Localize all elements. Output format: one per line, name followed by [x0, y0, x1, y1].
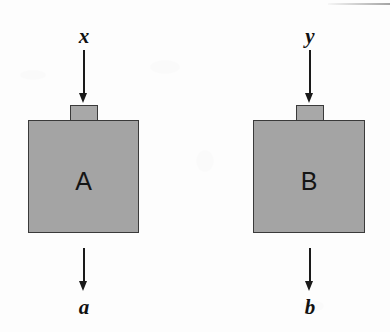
- scan-artifact-line: [328, 3, 390, 5]
- output-arrow-head-b: [305, 281, 313, 291]
- scan-artifact-speck: [20, 70, 46, 80]
- block-b-label: B: [254, 169, 364, 194]
- input-arrow-head-b: [305, 93, 313, 103]
- block-a[interactable]: A: [28, 120, 139, 233]
- input-label-y: y: [290, 26, 330, 47]
- output-arrow-shaft-b: [309, 248, 311, 283]
- input-arrow-head-a: [79, 93, 87, 103]
- block-b-nub: [296, 105, 324, 121]
- input-label-x: x: [64, 26, 104, 47]
- scan-artifact-speck: [150, 60, 180, 74]
- block-b[interactable]: B: [253, 120, 365, 233]
- scan-artifact-speck: [196, 150, 214, 172]
- output-arrow-head-a: [79, 281, 87, 291]
- figure-canvas: x A a y B b: [0, 0, 390, 332]
- input-arrow-shaft-b: [309, 50, 311, 95]
- block-a-nub: [70, 105, 98, 121]
- output-arrow-shaft-a: [83, 248, 85, 283]
- output-label-a: a: [64, 297, 104, 318]
- block-a-label: A: [29, 169, 138, 194]
- input-arrow-shaft-a: [83, 50, 85, 95]
- output-label-b: b: [290, 297, 330, 318]
